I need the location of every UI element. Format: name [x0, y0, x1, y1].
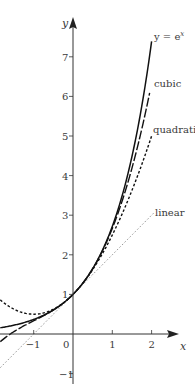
curve-labels: y = ex cubic quadratic linear	[153, 30, 195, 218]
x-axis-label: x	[180, 340, 187, 353]
exp-label-base: y = e	[153, 31, 180, 42]
axes	[0, 17, 179, 384]
exponential-curve	[0, 41, 151, 327]
taylor-approximation-chart: x y 0 −112−11234567 y = ex cubic quadrat…	[0, 0, 195, 384]
y-axis-label: y	[61, 17, 69, 30]
y-tick-label: 7	[62, 52, 68, 63]
x-tick-label: 2	[149, 339, 155, 350]
x-tick-label: −1	[26, 339, 41, 350]
axis-ticks	[34, 57, 152, 374]
y-tick-label: 3	[62, 210, 68, 221]
y-tick-label: −1	[59, 369, 74, 380]
x-tick-label: 1	[109, 339, 115, 350]
exp-curve-label: y = ex	[153, 30, 184, 42]
y-tick-label: 2	[62, 250, 68, 261]
y-tick-label: 6	[62, 91, 68, 102]
plot-curves	[0, 41, 153, 367]
quadratic-curve-label: quadratic	[153, 124, 195, 135]
cubic-curve-label: cubic	[154, 78, 182, 89]
exp-label-superscript: x	[180, 30, 184, 38]
origin-label: 0	[63, 339, 69, 350]
y-tick-label: 5	[62, 131, 68, 142]
tick-labels: −112−11234567	[26, 52, 155, 380]
y-tick-label: 1	[62, 289, 68, 300]
cubic-curve	[0, 93, 149, 342]
quadratic-curve	[0, 136, 151, 314]
axis-labels: x y 0 −112−11234567	[26, 17, 187, 380]
linear-curve-label: linear	[155, 207, 185, 218]
y-tick-label: 4	[62, 171, 68, 182]
